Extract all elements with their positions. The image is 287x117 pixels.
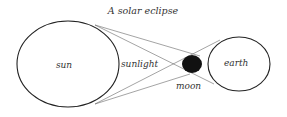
ray-bottom-to-earth — [95, 40, 220, 104]
solar-eclipse-diagram: A solar eclipse sun sunlight moon earth — [0, 0, 287, 117]
ray-top-to-earth — [95, 25, 214, 84]
diagram-title: A solar eclipse — [107, 5, 179, 16]
sun-label: sun — [56, 60, 72, 70]
earth-label: earth — [224, 58, 248, 68]
moon-label: moon — [176, 81, 201, 91]
sunlight-label: sunlight — [121, 59, 159, 69]
moon-circle — [182, 55, 202, 73]
